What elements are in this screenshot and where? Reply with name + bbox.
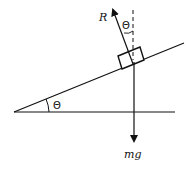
- normal-angle-label: Θ: [122, 20, 130, 31]
- incline-angle-arc: [46, 99, 49, 112]
- normal-angle-arc: [124, 31, 133, 33]
- incline-angle-label: Θ: [53, 100, 61, 111]
- incline-line: [14, 43, 184, 112]
- inclined-plane-diagram: Θ Θ R mg: [0, 0, 193, 169]
- normal-force-label: R: [98, 11, 107, 24]
- weight-force-label: mg: [124, 148, 141, 161]
